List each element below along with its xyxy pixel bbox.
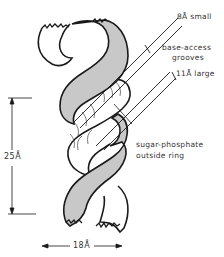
white-strand-top-lobe bbox=[38, 24, 72, 66]
backbone-label-line2: outside ring bbox=[136, 151, 184, 160]
grooves-label-line2: grooves bbox=[172, 53, 204, 62]
white-strand-bottom-lobe bbox=[100, 186, 128, 232]
grooves-label-line1: base-access bbox=[162, 43, 211, 52]
backbone-label-line1: sugar-phosphate bbox=[136, 140, 204, 149]
dna-helix-diagram bbox=[0, 0, 224, 257]
small-groove-label: 8Å small bbox=[177, 12, 212, 21]
large-groove-label: 11Å large bbox=[176, 69, 215, 78]
pitch-label: 25Å bbox=[4, 152, 21, 161]
diameter-label: 18Å bbox=[73, 241, 90, 250]
